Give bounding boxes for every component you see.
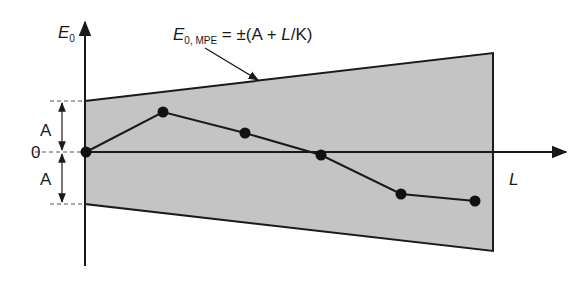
offset-label-upper: A (40, 121, 52, 140)
data-point (316, 150, 327, 161)
data-point (470, 196, 481, 207)
data-point (240, 128, 251, 139)
x-axis-label: L (509, 170, 518, 189)
formula-label: E0, MPE = ±(A + L/K) (173, 25, 312, 46)
data-point (396, 189, 407, 200)
offset-label-lower: A (40, 170, 52, 189)
data-point (158, 107, 169, 118)
y-axis-label: E0 (58, 23, 75, 44)
mpe-diagram: E0 L 0 A A E0, MPE = ±(A + L/K) (0, 0, 577, 291)
formula-pointer-arrow (205, 48, 258, 80)
zero-label: 0 (31, 143, 40, 162)
data-point (81, 147, 92, 158)
